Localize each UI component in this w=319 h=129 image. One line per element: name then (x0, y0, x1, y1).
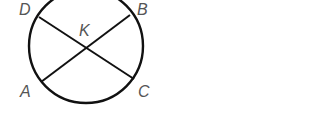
point-label-c: C (138, 83, 150, 100)
point-label-b: B (137, 1, 148, 18)
geometry-diagram: D B K A C (0, 0, 319, 129)
point-label-k: K (79, 22, 91, 39)
circle (29, 0, 143, 103)
point-label-d: D (19, 1, 31, 18)
point-label-a: A (19, 83, 31, 100)
